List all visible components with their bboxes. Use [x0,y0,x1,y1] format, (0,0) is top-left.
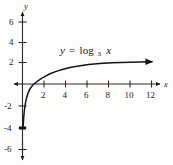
log-function-graph-figure: 2 4 6 8 10 12 6 4 2 -2 -4 -6 y x y = log… [0,0,173,165]
plot-canvas [0,0,173,165]
y-axis-label: y [24,2,28,11]
equation-lhs: y [60,44,65,56]
x-tick-label-6: 6 [84,91,89,100]
equation-operator: = [68,44,76,56]
equation-annotation: y = log 3 x [60,44,111,58]
y-tick-label-6: 6 [9,18,14,27]
x-tick-label-12: 12 [146,91,155,100]
y-tick-label-neg4: -4 [4,124,12,133]
x-tick-label-2: 2 [41,91,46,100]
y-tick-label-2: 2 [9,58,14,67]
equation-argument: x [104,44,111,56]
equation-function: log [79,44,94,56]
equation-base: 3 [97,50,101,58]
x-tick-label-8: 8 [106,91,111,100]
y-tick-label-neg2: -2 [4,102,12,111]
x-tick-label-4: 4 [63,91,68,100]
y-tick-label-4: 4 [9,38,14,47]
x-axis-label: x [164,80,168,89]
y-tick-label-neg6: -6 [4,145,12,154]
x-tick-label-10: 10 [125,91,134,100]
